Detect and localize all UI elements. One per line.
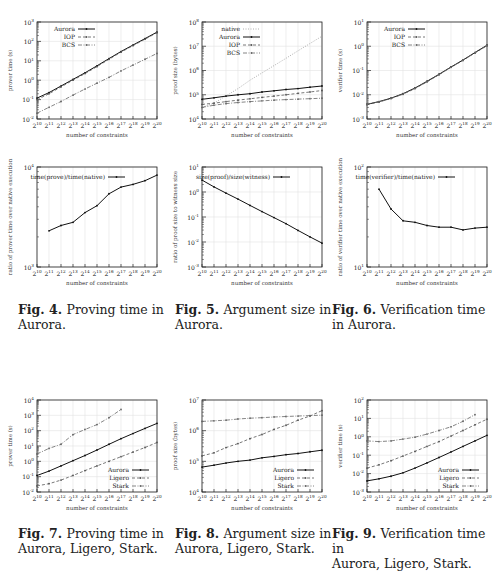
svg-text:213: 213 (68, 121, 77, 129)
figure-label: Fig. 8. (175, 526, 223, 541)
series-stark (37, 410, 121, 455)
svg-text:215: 215 (92, 121, 101, 129)
svg-text:Aurora: Aurora (218, 33, 241, 40)
svg-text:103: 103 (24, 18, 35, 26)
svg-text:BCS: BCS (62, 41, 75, 48)
chart-c3: 10-310-210-11001012102112122132142152162… (330, 0, 495, 145)
legend: AuroraLigeroStark (437, 466, 479, 489)
caption-text: Aurora, Ligero, Stark. (332, 556, 472, 571)
svg-text:214: 214 (410, 121, 419, 129)
svg-text:214: 214 (80, 494, 89, 502)
caption-text: Aurora. (175, 317, 223, 332)
svg-text:219: 219 (140, 494, 149, 502)
svg-text:210: 210 (197, 121, 206, 129)
svg-text:Aurora: Aurora (107, 466, 130, 473)
svg-text:104: 104 (24, 163, 35, 171)
svg-text:214: 214 (245, 494, 254, 502)
figure-label: Fig. 7. (18, 526, 66, 541)
svg-text:212: 212 (221, 269, 230, 277)
chart-c6: 101102210211212213214215216217218219220n… (330, 145, 495, 293)
figure-caption-fig7: Fig. 7. Proving time inAurora, Ligero, S… (18, 526, 164, 556)
svg-text:216: 216 (104, 121, 113, 129)
svg-text:220: 220 (317, 494, 326, 502)
caption-text: Aurora, Ligero, Stark. (175, 541, 315, 556)
svg-text:BCS: BCS (227, 49, 240, 56)
svg-text:212: 212 (386, 121, 395, 129)
svg-text:220: 220 (152, 121, 161, 129)
chart-c7: 10-210-110010110210310421021121221321421… (0, 378, 165, 518)
x-axis-label: number of constraints (231, 132, 293, 138)
svg-text:IOP: IOP (394, 33, 405, 40)
chart-c5: 10-310-210-11001012102112122132142152162… (165, 145, 330, 293)
svg-text:210: 210 (32, 494, 41, 502)
svg-text:10-1: 10-1 (187, 213, 199, 221)
svg-text:Aurora: Aurora (383, 25, 406, 32)
figure-caption-fig6: Fig. 6. Verification timein Aurora. (332, 302, 485, 332)
grid (202, 167, 322, 267)
grid (367, 167, 487, 267)
svg-text:214: 214 (410, 494, 419, 502)
svg-text:105: 105 (189, 457, 200, 465)
svg-text:210: 210 (32, 121, 41, 129)
svg-text:217: 217 (116, 269, 125, 277)
figure-caption-fig8: Fig. 8. Argument size inAurora, Ligero, … (175, 526, 331, 556)
svg-text:216: 216 (104, 494, 113, 502)
svg-text:210: 210 (32, 269, 41, 277)
svg-text:Ligero: Ligero (109, 474, 129, 482)
x-axis-label: number of constraints (66, 505, 128, 511)
svg-text:218: 218 (458, 121, 467, 129)
svg-text:214: 214 (410, 269, 419, 277)
svg-text:Aurora: Aurora (272, 466, 295, 473)
svg-text:220: 220 (482, 269, 491, 277)
figure-label: Fig. 9. (332, 526, 380, 541)
svg-text:210: 210 (362, 494, 371, 502)
svg-text:216: 216 (104, 269, 113, 277)
x-axis-label: number of constraints (231, 280, 293, 286)
svg-text:10-2: 10-2 (352, 91, 364, 99)
legend: AuroraIOPBCS (383, 25, 425, 48)
svg-text:212: 212 (386, 269, 395, 277)
svg-text:218: 218 (293, 269, 302, 277)
x-axis-label: number of constraints (66, 280, 128, 286)
svg-text:220: 220 (152, 494, 161, 502)
x-axis-label: number of constraints (396, 132, 458, 138)
svg-text:Ligero: Ligero (439, 474, 459, 482)
svg-text:215: 215 (422, 494, 431, 502)
svg-text:213: 213 (68, 269, 77, 277)
svg-text:101: 101 (24, 57, 35, 65)
svg-text:213: 213 (398, 269, 407, 277)
svg-text:211: 211 (44, 121, 53, 129)
svg-text:217: 217 (116, 494, 125, 502)
caption-text: in Aurora. (332, 317, 396, 332)
svg-text:216: 216 (269, 269, 278, 277)
legend: nativeAuroraIOPBCS (218, 25, 260, 56)
grid (37, 167, 157, 267)
svg-text:214: 214 (245, 121, 254, 129)
svg-text:213: 213 (233, 494, 242, 502)
figure-caption-fig9: Fig. 9. Verification time inAurora, Lige… (332, 526, 495, 571)
svg-text:216: 216 (434, 121, 443, 129)
svg-text:Aurora: Aurora (53, 25, 76, 32)
svg-text:107: 107 (189, 396, 200, 404)
svg-text:217: 217 (446, 269, 455, 277)
caption-text: Argument size in (223, 302, 331, 317)
svg-text:216: 216 (434, 269, 443, 277)
svg-text:211: 211 (209, 269, 218, 277)
figure-caption-fig4: Fig. 4. Proving time inAurora. (18, 302, 164, 332)
y-axis-label: verifier time (s) (337, 424, 343, 468)
figure-label: Fig. 4. (18, 302, 66, 317)
svg-text:211: 211 (44, 494, 53, 502)
x-axis-label: number of constraints (396, 280, 458, 286)
grid (37, 22, 157, 119)
svg-text:10-2: 10-2 (187, 238, 199, 246)
chart-c1: 10-210-110010110210321021121221321421521… (0, 0, 165, 145)
svg-text:218: 218 (458, 269, 467, 277)
svg-text:219: 219 (305, 269, 314, 277)
svg-text:10-1: 10-1 (22, 472, 34, 480)
svg-text:Ligero: Ligero (274, 474, 294, 482)
svg-text:215: 215 (92, 494, 101, 502)
svg-text:218: 218 (128, 494, 137, 502)
svg-text:215: 215 (257, 269, 266, 277)
svg-text:216: 216 (269, 494, 278, 502)
caption-text: Aurora, Ligero, Stark. (18, 541, 158, 556)
